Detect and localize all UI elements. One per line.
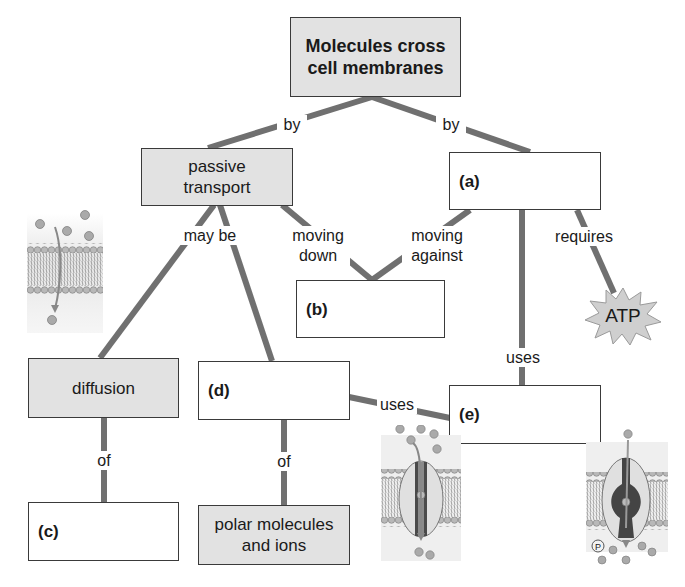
- node-passive-transport: passive transport: [141, 148, 293, 206]
- node-polar-molecules: polar molecules and ions: [198, 505, 350, 565]
- node-c[interactable]: (c): [28, 502, 179, 561]
- diffusion-illustration: [27, 205, 103, 333]
- atp-burst: ATP: [583, 286, 663, 346]
- link-label-of-diffusion: of: [94, 451, 114, 470]
- link-label-moving-against: moving against: [402, 226, 472, 266]
- node-b-label: (b): [306, 299, 328, 320]
- node-root: Molecules cross cell membranes: [290, 17, 461, 97]
- node-diffusion: diffusion: [28, 358, 179, 418]
- node-passive-label: passive transport: [142, 156, 292, 198]
- pump-illustration: P: [586, 428, 668, 568]
- node-c-label: (c): [38, 521, 59, 542]
- membrane-diffusion-icon: [27, 205, 103, 333]
- link-label-of-d: of: [274, 452, 294, 471]
- link-label-by-right: by: [436, 115, 466, 134]
- link-label-requires: requires: [551, 227, 617, 246]
- node-e[interactable]: (e): [449, 385, 601, 444]
- node-d[interactable]: (d): [198, 361, 350, 420]
- node-root-label: Molecules cross cell membranes: [291, 35, 460, 79]
- link-label-uses-a-e: uses: [503, 348, 543, 367]
- link-label-moving-down: moving down: [286, 226, 350, 266]
- atp-label: ATP: [583, 305, 663, 327]
- channel-protein-icon: [381, 425, 461, 565]
- link-label-by-left: by: [277, 115, 307, 134]
- node-b[interactable]: (b): [296, 280, 445, 338]
- node-polar-label: polar molecules and ions: [199, 514, 349, 556]
- node-a[interactable]: (a): [449, 152, 601, 210]
- atp-pump-icon: P: [586, 428, 668, 568]
- svg-text:P: P: [595, 542, 601, 552]
- node-a-label: (a): [459, 171, 480, 192]
- link-label-may-be: may be: [178, 226, 242, 245]
- link-label-uses-d-e: uses: [377, 395, 417, 414]
- channel-protein-illustration: [381, 425, 461, 565]
- node-d-label: (d): [208, 380, 230, 401]
- node-diffusion-label: diffusion: [72, 378, 135, 399]
- node-e-label: (e): [459, 404, 480, 425]
